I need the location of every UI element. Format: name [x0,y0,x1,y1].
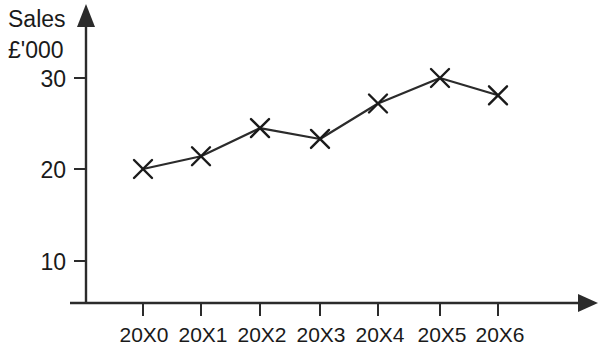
x-tick-labels: 20X0 20X1 20X2 20X3 20X4 20X5 20X6 [119,323,524,346]
series-line-sales [143,78,498,169]
chart-canvas: Sales £'000 30 20 10 20X0 20X1 [0,0,602,350]
y-axis-arrow-icon [77,4,95,27]
x-tick-label-20X3: 20X3 [296,323,345,346]
y-axis-title-line1: Sales [8,6,66,32]
x-tick-label-20X4: 20X4 [355,323,404,346]
x-tick-label-20X2: 20X2 [237,323,286,346]
y-tick-marks [74,78,86,261]
y-tick-label-20: 20 [40,157,66,183]
x-tick-marks [143,303,498,316]
data-point-20X2 [251,119,269,137]
x-axis-arrow-icon [578,294,598,312]
data-point-20X5 [431,69,449,87]
y-tick-label-30: 30 [40,66,66,92]
x-tick-label-20X1: 20X1 [178,323,227,346]
x-tick-label-20X6: 20X6 [475,323,524,346]
data-point-20X6 [489,86,507,104]
x-tick-label-20X0: 20X0 [119,323,168,346]
series-markers-sales [134,69,507,178]
data-point-20X0 [134,160,152,178]
x-tick-label-20X5: 20X5 [417,323,466,346]
data-point-20X4 [369,94,387,112]
y-tick-label-10: 10 [40,249,66,275]
y-tick-labels: 30 20 10 [40,66,66,275]
data-point-20X1 [192,147,210,165]
y-axis-title-line2: £'000 [8,37,64,63]
line-chart: Sales £'000 30 20 10 20X0 20X1 [0,0,602,350]
